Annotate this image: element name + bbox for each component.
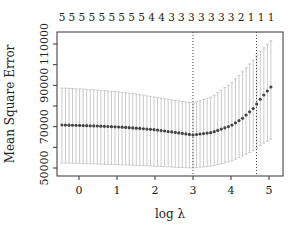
top-axis-label: 5 xyxy=(59,11,66,23)
data-point xyxy=(255,102,258,105)
data-point xyxy=(110,125,113,128)
top-axis-label: 3 xyxy=(178,11,185,23)
top-axis-label: 1 xyxy=(268,11,275,23)
data-point xyxy=(131,126,134,129)
data-point xyxy=(135,127,138,130)
data-point xyxy=(216,129,219,132)
data-point xyxy=(128,126,131,129)
data-point xyxy=(74,124,77,127)
data-point xyxy=(230,123,233,126)
data-point xyxy=(163,129,166,132)
data-point xyxy=(269,85,272,88)
data-point xyxy=(85,124,88,127)
top-axis-label: 3 xyxy=(218,11,225,23)
data-point xyxy=(223,126,226,129)
data-point xyxy=(121,126,124,129)
data-point xyxy=(234,121,237,124)
data-point xyxy=(67,124,70,127)
data-point xyxy=(241,117,244,120)
data-point xyxy=(152,128,155,131)
data-point xyxy=(262,93,265,96)
data-point xyxy=(184,132,187,135)
data-point xyxy=(113,125,116,128)
data-point xyxy=(106,125,109,128)
top-axis-label: 4 xyxy=(148,11,155,23)
data-point xyxy=(149,128,152,131)
x-tick-label: 4 xyxy=(228,184,235,197)
data-point xyxy=(227,125,230,128)
x-tick-label: 3 xyxy=(190,184,197,197)
data-point xyxy=(142,127,145,130)
data-point xyxy=(248,110,251,113)
data-point xyxy=(198,132,201,135)
data-point xyxy=(209,131,212,134)
data-point xyxy=(117,125,120,128)
data-points xyxy=(60,85,272,136)
x-axis: 012345 xyxy=(76,176,273,197)
data-point xyxy=(237,119,240,122)
data-point xyxy=(60,123,63,126)
top-axis-label: 3 xyxy=(168,11,175,23)
top-axis-label: 4 xyxy=(158,11,165,23)
data-point xyxy=(170,130,173,133)
x-tick-label: 5 xyxy=(266,184,273,197)
data-point xyxy=(159,129,162,132)
top-axis-label: 5 xyxy=(128,11,135,23)
top-axis-label: 5 xyxy=(138,11,145,23)
top-axis-labels: 5555555554433333332111 xyxy=(59,11,275,23)
data-point xyxy=(245,113,248,116)
data-point xyxy=(266,89,269,92)
y-tick-label: 70000 xyxy=(38,109,51,144)
data-point xyxy=(145,127,148,130)
top-axis-label: 1 xyxy=(248,11,255,23)
top-axis-label: 2 xyxy=(238,11,245,23)
data-point xyxy=(213,130,216,133)
x-axis-title: log λ xyxy=(155,207,186,221)
top-axis-label: 5 xyxy=(79,11,86,23)
data-point xyxy=(71,124,74,127)
data-point xyxy=(188,133,191,136)
top-axis-label: 5 xyxy=(69,11,76,23)
data-point xyxy=(252,107,255,110)
data-point xyxy=(177,131,180,134)
data-point xyxy=(195,133,198,136)
top-axis-label: 3 xyxy=(198,11,205,23)
top-axis-label: 5 xyxy=(108,11,115,23)
top-axis-label: 3 xyxy=(188,11,195,23)
data-point xyxy=(259,98,262,101)
data-point xyxy=(96,124,99,127)
y-tick-label: 90000 xyxy=(38,68,51,103)
x-tick-label: 0 xyxy=(76,184,83,197)
plot-frame xyxy=(57,32,283,176)
data-point xyxy=(156,128,159,131)
data-point xyxy=(191,133,194,136)
error-bars xyxy=(60,41,272,168)
data-point xyxy=(138,127,141,130)
data-point xyxy=(181,132,184,135)
data-point xyxy=(206,131,209,134)
x-tick-label: 1 xyxy=(114,184,121,197)
data-point xyxy=(64,123,67,126)
y-axis: 500007000090000110000 xyxy=(38,23,57,186)
data-point xyxy=(220,128,223,131)
data-point xyxy=(103,125,106,128)
x-tick-label: 2 xyxy=(152,184,159,197)
y-tick-label: 110000 xyxy=(38,23,51,65)
y-axis-title: Mean Square Error xyxy=(3,44,17,163)
top-axis-label: 5 xyxy=(89,11,96,23)
data-point xyxy=(99,125,102,128)
cv-lasso-chart: 012345 500007000090000110000 55555555544… xyxy=(0,0,294,225)
data-point xyxy=(202,132,205,135)
top-axis-label: 1 xyxy=(258,11,265,23)
top-axis-label: 3 xyxy=(208,11,215,23)
y-tick-label: 50000 xyxy=(38,151,51,186)
data-point xyxy=(82,124,85,127)
data-point xyxy=(174,131,177,134)
data-point xyxy=(78,124,81,127)
top-axis-label: 5 xyxy=(118,11,125,23)
data-point xyxy=(167,130,170,133)
data-point xyxy=(92,124,95,127)
data-point xyxy=(89,124,92,127)
top-axis-label: 3 xyxy=(228,11,235,23)
data-point xyxy=(124,126,127,129)
